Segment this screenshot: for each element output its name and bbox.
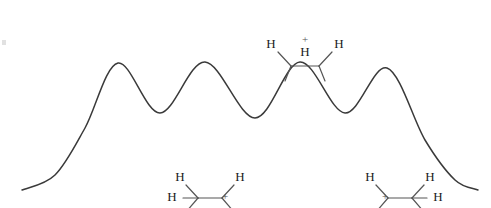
atom-label-h-top-right: H <box>425 169 434 184</box>
bond-left-c-to-h-lower <box>285 66 291 81</box>
atom-label-h-mid-left: H <box>167 189 176 204</box>
bond-right-c-to-h-up <box>412 185 424 198</box>
staggered-cation-right-drawing: H H H + <box>345 168 455 208</box>
bond-left-c-to-h-upper <box>278 52 291 66</box>
atom-label-h-top-left: H <box>175 169 184 184</box>
energy-profile-figure: H H H + H H H + H H <box>0 0 491 208</box>
charge-label-plus: + <box>382 190 388 202</box>
atom-label-h-right: H <box>334 36 343 51</box>
bond-left-c-to-h-up <box>186 185 198 198</box>
bond-left-c-to-h-down <box>186 198 198 208</box>
atom-label-h-left: H <box>266 36 275 51</box>
atom-label-h-top-right: H <box>235 169 244 184</box>
bond-right-c-to-h-upper <box>319 52 332 66</box>
atom-label-h-top-left: H <box>365 169 374 184</box>
staggered-cation-left-drawing: H H H + <box>155 168 265 208</box>
bond-right-c-to-h-down <box>412 198 424 208</box>
atom-label-h-center: H <box>300 44 309 59</box>
charge-label-plus: + <box>302 33 308 45</box>
eclipsed-cation-drawing: H H H + <box>255 32 355 88</box>
charge-label-plus: + <box>222 190 228 202</box>
bond-right-c-to-h-lower <box>319 66 325 81</box>
atom-label-h-mid-right: H <box>433 189 442 204</box>
